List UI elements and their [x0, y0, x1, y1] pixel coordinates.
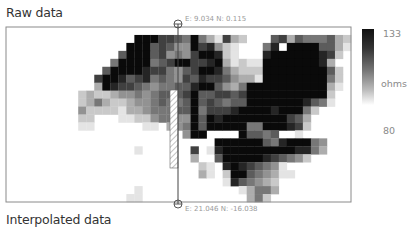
heatmap-cell: [86, 122, 94, 130]
heatmap-cell: [303, 43, 311, 51]
heatmap-cell: [311, 75, 319, 83]
heatmap-cell: [118, 107, 126, 115]
heatmap-cell: [311, 51, 319, 59]
heatmap-cell: [239, 59, 247, 67]
heatmap-cell: [239, 178, 247, 186]
heatmap-cell: [271, 130, 279, 138]
heatmap-cell: [158, 35, 166, 43]
heatmap-cell: [255, 67, 263, 75]
heatmap-cell: [223, 178, 231, 186]
heatmap-cell: [311, 59, 319, 67]
heatmap-cell: [335, 75, 343, 83]
heatmap-cell: [126, 194, 134, 202]
heatmap-cell: [303, 138, 311, 146]
heatmap-cell: [150, 51, 158, 59]
heatmap-cell: [118, 99, 126, 107]
heatmap-cell: [207, 83, 215, 91]
heatmap-cell: [295, 59, 303, 67]
heatmap-cell: [223, 91, 231, 99]
heatmap-cell: [263, 138, 271, 146]
heatmap-cell: [215, 35, 223, 43]
heatmap-cell: [247, 170, 255, 178]
heatmap-cell: [255, 186, 263, 194]
heatmap-cell: [199, 43, 207, 51]
heatmap-cell: [295, 43, 303, 51]
heatmap-cell: [78, 91, 86, 99]
heatmap-cell: [319, 138, 327, 146]
heatmap-cell: [231, 43, 239, 51]
heatmap-cell: [207, 99, 215, 107]
heatmap-cell: [255, 162, 263, 170]
heatmap-cell: [279, 138, 287, 146]
heatmap-cell: [207, 43, 215, 51]
heatmap-cell: [231, 122, 239, 130]
heatmap-cell: [271, 75, 279, 83]
heatmap-cell: [279, 35, 287, 43]
interpolated-data-title: Interpolated data: [6, 212, 111, 227]
heatmap-cell: [183, 99, 191, 107]
heatmap-cell: [303, 122, 311, 130]
heatmap-cell: [134, 99, 142, 107]
heatmap-cell: [319, 91, 327, 99]
heatmap-cell: [271, 35, 279, 43]
heatmap-cell: [287, 43, 295, 51]
transect-end-label: E: 21.046 N: -16.038: [185, 205, 258, 213]
heatmap-cell: [247, 162, 255, 170]
heatmap-cell: [158, 51, 166, 59]
heatmap-cell: [78, 115, 86, 123]
heatmap-cell: [183, 35, 191, 43]
heatmap-cell: [215, 51, 223, 59]
heatmap-cell: [183, 75, 191, 83]
heatmap-cell: [279, 51, 287, 59]
heatmap-cell: [239, 146, 247, 154]
heatmap-cell: [231, 170, 239, 178]
heatmap-cell: [102, 99, 110, 107]
heatmap-cell: [174, 51, 182, 59]
heatmap-cell: [319, 59, 327, 67]
heatmap-cell: [126, 51, 134, 59]
heatmap-cell: [335, 51, 343, 59]
heatmap-cell: [102, 75, 110, 83]
heatmap-cell: [126, 59, 134, 67]
heatmap-cell: [311, 83, 319, 91]
heatmap-cell: [191, 43, 199, 51]
heatmap-cell: [207, 51, 215, 59]
heatmap-cell: [199, 107, 207, 115]
heatmap-cell: [263, 178, 271, 186]
heatmap-cell: [311, 138, 319, 146]
heatmap-cell: [231, 146, 239, 154]
heatmap-cell: [303, 51, 311, 59]
heatmap-cell: [271, 162, 279, 170]
heatmap-cell: [223, 67, 231, 75]
heatmap-cell: [134, 91, 142, 99]
heatmap-cell: [287, 154, 295, 162]
heatmap-cell: [247, 83, 255, 91]
heatmap-cell: [239, 138, 247, 146]
heatmap-cell: [255, 91, 263, 99]
heatmap-cell: [327, 91, 335, 99]
colorbar: [362, 29, 374, 105]
heatmap-cell: [166, 83, 174, 91]
heatmap-cell: [94, 107, 102, 115]
heatmap-cell: [215, 107, 223, 115]
heatmap-cell: [207, 162, 215, 170]
heatmap-cell: [239, 154, 247, 162]
heatmap-cell: [142, 43, 150, 51]
heatmap-cell: [78, 122, 86, 130]
heatmap-cell: [94, 91, 102, 99]
heatmap-cell: [311, 43, 319, 51]
heatmap-cell: [287, 59, 295, 67]
heatmap-cell: [183, 51, 191, 59]
heatmap-cell: [86, 99, 94, 107]
heatmap-cell: [239, 130, 247, 138]
heatmap-cell: [247, 122, 255, 130]
heatmap-cell: [118, 83, 126, 91]
heatmap-cell: [231, 115, 239, 123]
heatmap-cell: [207, 122, 215, 130]
heatmap-cell: [207, 115, 215, 123]
heatmap-cell: [231, 91, 239, 99]
heatmap-cell: [271, 59, 279, 67]
heatmap-cell: [158, 43, 166, 51]
heatmap-cell: [118, 59, 126, 67]
heatmap-cell: [223, 99, 231, 107]
